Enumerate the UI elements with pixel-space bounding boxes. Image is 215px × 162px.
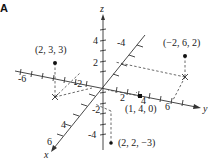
point-label-2-3-3: (2, 3, 3): [35, 45, 67, 55]
x-axis: [54, 35, 145, 148]
x-tick-6: 6: [47, 137, 52, 147]
x-tick-neg4: -4: [117, 38, 125, 48]
z-tick-2: 2: [93, 58, 98, 68]
y-ticks: [20, 69, 183, 106]
coordinate-diagram: [0, 0, 215, 162]
y-tick-neg6: -6: [18, 74, 26, 84]
point-2-3-3: [53, 61, 57, 65]
panel-label: A: [0, 2, 8, 14]
point-2-2-neg3: [109, 141, 113, 145]
z-axis-label: z: [100, 4, 104, 14]
point-neg2-6-2: [183, 54, 187, 58]
point-label-1-4-0: (1, 4, 0): [125, 104, 157, 114]
y-tick-2: 2: [120, 93, 125, 103]
z-tick-4: 4: [93, 36, 98, 46]
y-axis-arrow: [193, 104, 201, 109]
y-axis-label: y: [203, 104, 207, 114]
x-tick-neg2: -2: [74, 79, 82, 89]
x-tick-4: 4: [61, 120, 66, 130]
point-label-2-2-neg3: (2, 2, −3): [118, 138, 155, 148]
y-tick-6: 6: [165, 102, 170, 112]
z-tick-neg2: -2: [92, 105, 100, 115]
point-label-neg2-6-2: (−2, 6, 2): [163, 38, 200, 48]
z-tick-neg4: -4: [88, 130, 96, 140]
x-axis-label: x: [44, 150, 48, 160]
z-axis-arrow: [101, 14, 105, 20]
